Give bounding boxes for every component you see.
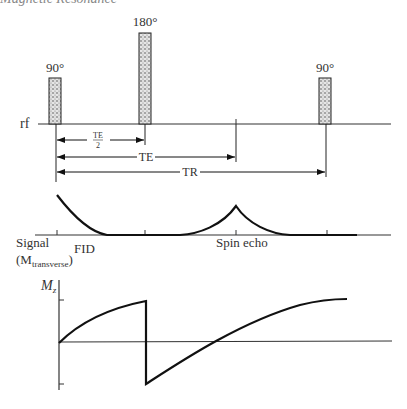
rf-pulse-90-second [319,78,331,124]
signal-axis-suffix: ) [68,252,72,267]
rf-axis-label: rf [20,116,30,131]
signal-axis-prefix: (M [16,252,32,267]
spin-echo-label: Spin echo [216,235,268,250]
pulse-label-90-second: 90° [316,60,334,75]
rf-pulse-90-first [49,78,61,124]
signal-axis-label-line2: (Mtransverse) [16,252,73,269]
te-half-denominator: 2 [96,141,100,150]
signal-panel: Signal (Mtransverse) FID Spin echo [16,195,391,269]
mz-axis-sub: z [52,285,57,295]
mz-axis-label: Mz [40,278,57,295]
rf-panel: rf 90° 180° 90° TE 2 TE TR [20,14,391,182]
pulse-sequence-diagram: rf 90° 180° 90° TE 2 TE TR [0,0,407,409]
pulse-label-180: 180° [133,14,158,29]
rf-pulse-180 [139,33,151,124]
te-half-numerator: TE [93,131,103,140]
signal-axis-sub: transverse [32,259,68,269]
signal-curve [57,195,357,235]
mz-panel: Mz [40,278,392,390]
signal-axis-label-line1: Signal [16,235,50,250]
fid-label: FID [74,241,95,256]
mz-zero-line [59,341,392,342]
pulse-label-90-first: 90° [46,60,64,75]
te-label: TE [139,150,154,164]
tr-label: TR [182,165,197,179]
